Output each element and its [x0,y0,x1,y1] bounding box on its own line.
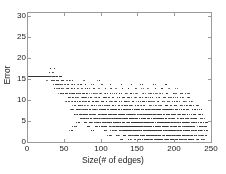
x-tick-label-100: 100 [86,145,116,153]
x-tick-label-50: 50 [49,145,79,153]
plot-area [27,12,212,143]
x-tick-label-150: 150 [122,145,152,153]
y-tick-right-25 [208,37,212,38]
x-tick-top-50 [64,12,65,16]
y-tick-right-30 [208,16,212,17]
x-tick-label-250: 250 [196,145,226,153]
x-tick-label-0: 0 [12,145,42,153]
x-tick-0 [27,139,28,143]
x-tick-top-200 [174,12,175,16]
scatter-plot-figure: 051015202530 050100150200250 Size(# of e… [0,0,226,174]
y-tick-label-10: 10 [4,96,26,104]
x-tick-250 [211,139,212,143]
y-axis-title: Error [2,55,12,95]
y-tick-25 [27,37,31,38]
x-tick-top-250 [211,12,212,16]
y-tick-right-15 [208,79,212,80]
y-tick-right-5 [208,121,212,122]
x-tick-label-200: 200 [159,145,189,153]
y-tick-right-10 [208,100,212,101]
x-tick-top-0 [27,12,28,16]
y-tick-10 [27,100,31,101]
y-tick-right-20 [208,58,212,59]
x-tick-top-100 [101,12,102,16]
data-points-layer [28,13,211,142]
y-tick-label-30: 30 [4,12,26,20]
y-tick-15 [27,79,31,80]
y-tick-label-5: 5 [4,117,26,125]
y-tick-5 [27,121,31,122]
y-tick-20 [27,58,31,59]
x-axis-title: Size(# of edges) [0,155,226,165]
x-tick-50 [64,139,65,143]
x-tick-150 [137,139,138,143]
y-tick-label-25: 25 [4,33,26,41]
x-tick-100 [101,139,102,143]
y-tick-30 [27,16,31,17]
x-tick-200 [174,139,175,143]
x-tick-top-150 [137,12,138,16]
